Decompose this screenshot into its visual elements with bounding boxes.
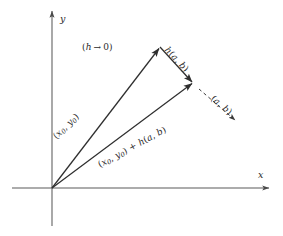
limit-h: h [86,42,92,52]
limit-paren-close: ) [109,42,113,52]
sum-vector [52,84,192,189]
x-axis-label: x [258,170,263,180]
limit-annotation: (h→0) [82,43,113,52]
y-axis-label: y [60,14,65,24]
figure-canvas: (h→0) (x0, y0) h(a, b) (a, b) (x0, y0) +… [0,0,283,236]
vector-diagram [0,0,283,236]
limit-arrow-icon: → [92,42,104,52]
